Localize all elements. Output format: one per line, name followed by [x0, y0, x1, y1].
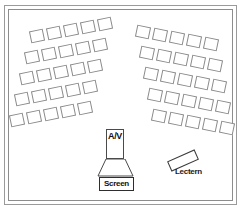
- right-seating-block-seat[interactable]: [139, 46, 155, 61]
- right-seating-block-seat[interactable]: [215, 100, 231, 115]
- av-projector-box[interactable]: A/V: [106, 129, 124, 159]
- right-seating-block-seat[interactable]: [186, 34, 202, 49]
- right-seating-block-seat[interactable]: [203, 37, 219, 52]
- left-seating-block-seat[interactable]: [24, 50, 40, 65]
- left-seating-block-seat[interactable]: [97, 17, 113, 32]
- room-seating-plan: A/V Screen Lectern: [0, 0, 243, 215]
- left-seating-block-seat[interactable]: [70, 62, 86, 77]
- left-seating-block-seat[interactable]: [48, 86, 64, 101]
- right-seating-block-seat[interactable]: [185, 115, 201, 130]
- right-seating-block-seat[interactable]: [147, 88, 163, 103]
- right-seating-block-seat[interactable]: [160, 70, 176, 85]
- left-seating-block-seat[interactable]: [14, 92, 30, 107]
- av-projection-cone: [97, 159, 134, 177]
- left-seating-block-seat[interactable]: [26, 110, 42, 125]
- right-seating-block-seat[interactable]: [143, 67, 159, 82]
- left-seating-block-seat[interactable]: [53, 65, 69, 80]
- right-seating-block-seat[interactable]: [207, 58, 223, 73]
- right-seating-block-seat[interactable]: [151, 109, 167, 124]
- plan-canvas: A/V Screen Lectern: [0, 0, 243, 215]
- left-seating-block-seat[interactable]: [92, 38, 108, 53]
- right-seating-block-seat[interactable]: [168, 112, 184, 127]
- left-seating-block-seat[interactable]: [75, 41, 91, 56]
- right-seating-block-seat[interactable]: [211, 79, 227, 94]
- left-seating-block-seat[interactable]: [80, 20, 96, 35]
- left-seating-block-seat[interactable]: [60, 104, 76, 119]
- left-seating-block-seat[interactable]: [31, 89, 47, 104]
- right-seating-block-seat[interactable]: [198, 97, 214, 112]
- right-seating-block-seat[interactable]: [177, 73, 193, 88]
- left-seating-block-seat[interactable]: [63, 23, 79, 38]
- right-seating-block-seat[interactable]: [156, 49, 172, 64]
- lectern-label: Lectern: [175, 167, 202, 176]
- right-seating-block-seat[interactable]: [164, 91, 180, 106]
- left-seating-block-seat[interactable]: [19, 71, 35, 86]
- left-seating-block-seat[interactable]: [41, 47, 57, 62]
- right-seating-block-seat[interactable]: [173, 52, 189, 67]
- left-seating-block-seat[interactable]: [46, 26, 62, 41]
- right-seating-block-seat[interactable]: [194, 76, 210, 91]
- left-seating-block-seat[interactable]: [43, 107, 59, 122]
- right-seating-block-seat[interactable]: [190, 55, 206, 70]
- left-seating-block-seat[interactable]: [29, 29, 45, 44]
- right-seating-block-seat[interactable]: [152, 28, 168, 43]
- left-seating-block-seat[interactable]: [58, 44, 74, 59]
- right-seating-block-seat[interactable]: [135, 25, 151, 40]
- left-seating-block-seat[interactable]: [87, 59, 103, 74]
- right-seating-block-seat[interactable]: [181, 94, 197, 109]
- right-seating-block-seat[interactable]: [202, 118, 218, 133]
- left-seating-block-seat[interactable]: [65, 83, 81, 98]
- left-seating-block-seat[interactable]: [36, 68, 52, 83]
- right-seating-block-seat[interactable]: [219, 121, 235, 136]
- projection-screen-box[interactable]: Screen: [99, 177, 134, 191]
- left-seating-block-seat[interactable]: [82, 80, 98, 95]
- left-seating-block-seat[interactable]: [77, 101, 93, 116]
- right-seating-block-seat[interactable]: [169, 31, 185, 46]
- left-seating-block-seat[interactable]: [9, 113, 25, 128]
